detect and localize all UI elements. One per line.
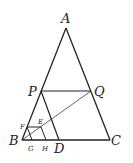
label-E: E — [37, 118, 43, 126]
label-G: G — [28, 145, 34, 153]
label-A: A — [60, 11, 70, 26]
label-D: D — [53, 141, 65, 156]
segment-EH — [41, 127, 46, 140]
label-B: B — [8, 133, 19, 148]
geometry-diagram: A P Q B C D E F G H — [0, 0, 133, 163]
label-P: P — [27, 84, 37, 99]
label-C: C — [111, 133, 121, 148]
label-Q: Q — [94, 84, 105, 99]
label-H: H — [41, 145, 49, 153]
label-F: F — [19, 123, 26, 131]
